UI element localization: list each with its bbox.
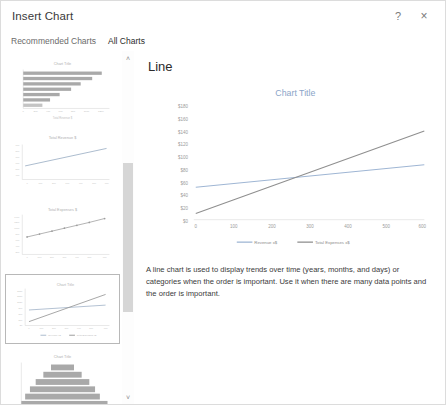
svg-text:700: 700: [16, 156, 21, 158]
svg-text:1000: 1000: [14, 227, 20, 229]
svg-text:$120: $120: [17, 301, 23, 303]
close-icon[interactable]: ×: [411, 5, 437, 27]
svg-text:1200: 1200: [98, 110, 104, 113]
svg-text:$100: $100: [178, 155, 188, 160]
svg-text:$30: $30: [18, 319, 23, 321]
scroll-down-icon[interactable]: ˅: [122, 390, 134, 404]
svg-text:100: 100: [38, 256, 43, 258]
svg-text:800: 800: [16, 233, 21, 235]
line-markers-chart-thumbnail[interactable]: Total Expenses $ 1400 1200 1000 800 600 …: [5, 201, 120, 271]
line-chart-thumbnail[interactable]: Total Revenue $ 900 800 700 600 500 400 …: [5, 128, 120, 198]
svg-text:$140: $140: [178, 130, 188, 135]
gallery-scrollbar[interactable]: ˄ ˅: [122, 51, 134, 404]
svg-text:100: 100: [39, 182, 44, 184]
svg-text:600: 600: [419, 224, 427, 229]
svg-text:300: 300: [64, 327, 69, 329]
svg-text:Total Expenses $: Total Expenses $: [48, 208, 78, 212]
scroll-up-icon[interactable]: ˄: [122, 51, 134, 65]
svg-text:600: 600: [16, 239, 21, 241]
svg-text:400: 400: [79, 182, 84, 184]
svg-text:1200: 1200: [14, 221, 20, 223]
svg-text:600: 600: [16, 162, 21, 164]
series-total-expenses-line: [196, 131, 425, 213]
funnel-chart-thumbnail[interactable]: Chart Title: [5, 347, 120, 404]
legend-label-revenue: Revenue x$: [254, 240, 277, 245]
svg-text:100: 100: [40, 327, 45, 329]
svg-text:500: 500: [89, 327, 94, 329]
svg-text:0: 0: [23, 110, 25, 113]
svg-text:100: 100: [230, 224, 238, 229]
scrollbar-track[interactable]: [122, 65, 134, 390]
line-chart-thumbnail-graphic: Total Revenue $ 900 800 700 600 500 400 …: [6, 129, 119, 197]
svg-text:Revenue x$: Revenue x$: [48, 334, 61, 337]
bar-chart-thumbnail-graphic: Chart Title 0 200 400 600 800: [6, 56, 119, 124]
svg-text:Total Revenue $: Total Revenue $: [53, 116, 73, 120]
scrollbar-thumb[interactable]: [123, 163, 133, 313]
svg-text:$90: $90: [18, 307, 23, 309]
svg-text:400: 400: [16, 174, 21, 176]
svg-text:Total Revenue $: Total Revenue $: [49, 136, 77, 140]
svg-text:Chart Title: Chart Title: [54, 62, 71, 66]
svg-text:0: 0: [26, 182, 28, 184]
svg-text:200: 200: [52, 327, 57, 329]
svg-text:$160: $160: [178, 117, 188, 122]
svg-text:1000: 1000: [84, 110, 90, 113]
tabstrip: Recommended Charts All Charts: [1, 31, 445, 51]
chart-title: Chart Title: [275, 88, 315, 98]
svg-text:200: 200: [34, 110, 39, 113]
svg-text:300: 300: [63, 256, 68, 258]
svg-text:500: 500: [382, 224, 390, 229]
insert-chart-dialog: Insert Chart ? × Recommended Charts All …: [0, 0, 446, 405]
svg-text:800: 800: [71, 110, 76, 113]
svg-text:200: 200: [16, 251, 21, 253]
svg-text:400: 400: [16, 245, 21, 247]
svg-text:Total Expenses x$: Total Expenses x$: [77, 334, 97, 337]
svg-text:600: 600: [59, 110, 64, 113]
svg-text:200: 200: [268, 224, 276, 229]
legend-label-total-expenses: Total Expenses x$: [315, 240, 350, 245]
svg-text:$60: $60: [18, 313, 23, 315]
svg-text:400: 400: [75, 256, 80, 258]
svg-text:500: 500: [92, 182, 97, 184]
svg-text:300: 300: [306, 224, 314, 229]
svg-text:$0: $0: [183, 219, 188, 224]
chart-type-description: A line chart is used to display trends o…: [146, 264, 435, 299]
svg-text:0: 0: [26, 256, 28, 258]
svg-text:800: 800: [16, 150, 21, 152]
line-two-series-chart-thumbnail[interactable]: Chart Title $180 $150 $120 $90 $60 $30 $…: [5, 274, 120, 344]
svg-text:$40: $40: [180, 193, 188, 198]
svg-text:900: 900: [16, 144, 21, 146]
dialog-body: Chart Title 0 200 400 600 800: [1, 51, 445, 404]
tab-all-charts[interactable]: All Charts: [106, 35, 147, 47]
y-axis-ticklabels: $180 $160 $140 $120 $100 $80 $60 $40 $20…: [178, 104, 188, 223]
svg-text:300: 300: [65, 182, 70, 184]
help-icon[interactable]: ?: [385, 5, 411, 27]
svg-text:$180: $180: [17, 290, 23, 292]
svg-text:400: 400: [77, 327, 82, 329]
svg-text:$0: $0: [20, 324, 23, 326]
series-revenue-line: [196, 165, 425, 187]
svg-text:$80: $80: [180, 168, 188, 173]
svg-text:$20: $20: [180, 206, 188, 211]
line-markers-chart-thumbnail-graphic: Total Expenses $ 1400 1200 1000 800 600 …: [6, 202, 119, 270]
svg-text:200: 200: [50, 256, 55, 258]
dialog-titlebar: Insert Chart ? ×: [1, 1, 445, 31]
svg-text:0: 0: [195, 224, 198, 229]
svg-text:200: 200: [52, 182, 57, 184]
chart-type-gallery: Chart Title 0 200 400 600 800: [1, 51, 122, 404]
svg-text:Chart Title: Chart Title: [57, 283, 74, 287]
line-two-series-chart-thumbnail-graphic: Chart Title $180 $150 $120 $90 $60 $30 $…: [6, 275, 119, 343]
bar-chart-thumbnail[interactable]: Chart Title 0 200 400 600 800: [5, 55, 120, 125]
tab-recommended-charts[interactable]: Recommended Charts: [9, 35, 98, 47]
svg-text:Chart Title: Chart Title: [54, 355, 71, 359]
svg-text:$180: $180: [178, 104, 188, 109]
chart-legend: Revenue x$ Total Expenses x$: [237, 240, 351, 245]
svg-text:$120: $120: [178, 142, 188, 147]
chart-preview-pane: Line Chart Title $180 $160 $140 $120 $10…: [134, 51, 445, 404]
chart-preview[interactable]: Chart Title $180 $160 $140 $120 $100 $80…: [144, 78, 437, 250]
chart-preview-graphic: Chart Title $180 $160 $140 $120 $100 $80…: [146, 80, 435, 248]
svg-text:500: 500: [16, 168, 21, 170]
svg-text:1400: 1400: [14, 216, 20, 218]
svg-text:400: 400: [344, 224, 352, 229]
svg-text:600: 600: [103, 256, 108, 258]
